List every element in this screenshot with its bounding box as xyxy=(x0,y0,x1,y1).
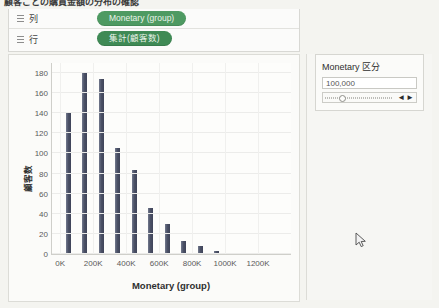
pill-monetary-group[interactable]: Monetary (group) xyxy=(97,11,186,26)
bar[interactable] xyxy=(82,72,87,254)
grid-icon xyxy=(17,15,24,22)
x-gridline xyxy=(192,63,193,254)
mouse-cursor-icon xyxy=(355,232,367,248)
filter-title: Monetary 区分 xyxy=(322,60,417,73)
x-axis-tick-label: 400K xyxy=(117,259,136,268)
y-gridline xyxy=(52,92,291,93)
slider-arrows[interactable]: ◄ ► xyxy=(395,94,416,102)
columns-shelf[interactable]: 列 Monetary (group) xyxy=(9,9,299,29)
y-gridline xyxy=(52,213,291,214)
filter-sidebar: Monetary 区分 100,000 ◄ ► xyxy=(306,54,432,300)
bar[interactable] xyxy=(132,170,137,254)
tableau-worksheet: 顧客ごとの購買金額の分布の確認 列 Monetary (group) 行 集計(… xyxy=(0,0,439,308)
plot-area[interactable]: 0204060801001201401601800K200K400K600K80… xyxy=(51,63,291,255)
prev-arrow-icon[interactable]: ◄ xyxy=(397,94,405,102)
y-axis-tick-label: 20 xyxy=(39,229,48,238)
x-gridline xyxy=(225,63,226,254)
y-axis-tick-label: 140 xyxy=(35,109,48,118)
y-axis-tick-label: 100 xyxy=(35,149,48,158)
rows-shelf-label: 行 xyxy=(29,33,38,46)
x-axis-tick-label: 1000K xyxy=(213,259,236,268)
y-gridline xyxy=(52,253,291,254)
shelf-container: 列 Monetary (group) 行 集計(顧客数) xyxy=(8,9,300,52)
y-axis-title: 顧客数 xyxy=(21,165,33,192)
bar[interactable] xyxy=(165,224,170,254)
worksheet-title: 顧客ごとの購買金額の分布の確認 xyxy=(4,0,139,8)
y-axis-tick-label: 160 xyxy=(35,89,48,98)
y-gridline xyxy=(52,173,291,174)
x-axis-tick-label: 200K xyxy=(84,259,103,268)
next-arrow-icon[interactable]: ► xyxy=(406,94,414,102)
y-axis-tick-label: 60 xyxy=(39,189,48,198)
x-gridline xyxy=(126,63,127,254)
slider-track[interactable] xyxy=(324,93,394,102)
slider-handle[interactable] xyxy=(339,95,346,102)
filter-slider[interactable]: ◄ ► xyxy=(322,92,417,103)
monetary-filter-card[interactable]: Monetary 区分 100,000 ◄ ► xyxy=(315,54,424,111)
x-axis-tick-label: 1200K xyxy=(246,259,269,268)
y-gridline xyxy=(52,233,291,234)
x-gridline xyxy=(258,63,259,254)
y-axis-tick-label: 80 xyxy=(39,169,48,178)
y-axis-tick-label: 120 xyxy=(35,129,48,138)
x-axis-tick-label: 800K xyxy=(183,259,202,268)
x-axis-title: Monetary (group) xyxy=(51,280,291,291)
y-axis-tick-label: 40 xyxy=(39,209,48,218)
bar[interactable] xyxy=(115,148,120,254)
worksheet-title-strip: 顧客ごとの購買金額の分布の確認 xyxy=(0,0,439,9)
x-gridline xyxy=(60,63,61,254)
y-axis-tick-label: 180 xyxy=(35,69,48,78)
y-gridline xyxy=(52,72,291,73)
pill-customer-count[interactable]: 集計(顧客数) xyxy=(97,31,172,46)
x-gridline xyxy=(159,63,160,254)
filter-value-input[interactable]: 100,000 xyxy=(322,77,417,89)
x-gridline xyxy=(93,63,94,254)
y-axis-tick-label: 0 xyxy=(44,250,48,259)
rows-shelf[interactable]: 行 集計(顧客数) xyxy=(9,29,299,49)
y-gridline xyxy=(52,193,291,194)
bar[interactable] xyxy=(99,79,104,254)
grid-icon xyxy=(17,36,24,43)
y-gridline xyxy=(52,112,291,113)
x-axis-tick-label: 0K xyxy=(55,259,65,268)
y-gridline xyxy=(52,152,291,153)
bar[interactable] xyxy=(148,208,153,254)
columns-shelf-label: 列 xyxy=(29,12,38,25)
y-gridline xyxy=(52,132,291,133)
x-axis-tick-label: 600K xyxy=(150,259,169,268)
chart-panel: 顧客数 0204060801001201401601800K200K400K60… xyxy=(8,54,300,302)
